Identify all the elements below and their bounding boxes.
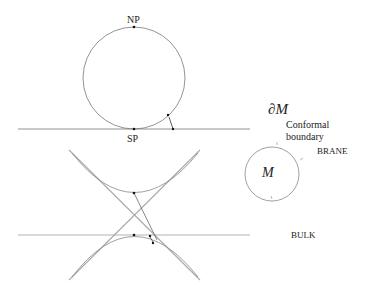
manifold-label: M bbox=[262, 165, 274, 180]
conformal-boundary-label-line1: Conformal bbox=[286, 119, 329, 130]
south-pole-label: SP bbox=[127, 133, 138, 144]
hyperboloid-point-dot bbox=[152, 242, 154, 244]
sphere-circle bbox=[83, 27, 185, 129]
boundary-symbol-label: ∂M bbox=[268, 101, 288, 117]
upper-vertex-dot bbox=[133, 192, 136, 195]
conformal-boundary-label-line2: boundary bbox=[286, 131, 324, 142]
caption-fragment bbox=[0, 284, 366, 295]
manifold-diagram bbox=[245, 142, 303, 201]
intersection-dot bbox=[149, 235, 151, 237]
lower-vertex-dot bbox=[133, 234, 136, 237]
bulk-label: BULK bbox=[291, 230, 316, 241]
stereographic-projection bbox=[18, 26, 250, 131]
hyperbolic-projection bbox=[18, 150, 250, 280]
projection-arrow-line bbox=[169, 117, 173, 129]
sphere-point-dot bbox=[167, 114, 169, 116]
north-pole-label: NP bbox=[127, 14, 140, 25]
hyperbola-upper-branch bbox=[72, 153, 198, 193]
brane-label: BRANE bbox=[317, 146, 348, 157]
diagram-canvas bbox=[0, 0, 366, 295]
boundary-tick-right bbox=[300, 158, 303, 160]
boundary-tick-bottom bbox=[271, 196, 272, 199]
hyperbola-lower-branch bbox=[72, 237, 198, 278]
south-pole-dot bbox=[133, 128, 136, 131]
projected-point-dot bbox=[172, 128, 174, 130]
projection-ray bbox=[134, 193, 157, 240]
north-pole-dot bbox=[133, 26, 136, 29]
